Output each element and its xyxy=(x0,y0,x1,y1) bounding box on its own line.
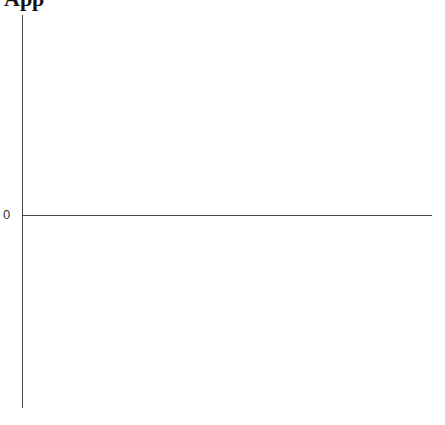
y-tick-label-zero: 0 xyxy=(3,207,10,222)
chart-plot-area: 0 xyxy=(0,0,445,425)
zero-baseline xyxy=(22,215,432,216)
y-axis-line xyxy=(22,15,23,408)
